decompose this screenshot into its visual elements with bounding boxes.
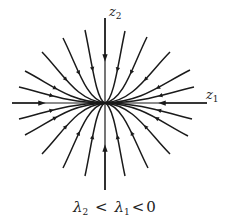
trajectory-curve xyxy=(85,103,105,176)
z1-symbol: z xyxy=(206,87,213,102)
z2-subscript: 2 xyxy=(116,11,122,21)
less-than-1: < xyxy=(95,198,108,216)
zero: 0 xyxy=(146,198,156,216)
lambda2-symbol: λ xyxy=(73,198,83,216)
trajectory-curve xyxy=(85,30,105,103)
trajectories xyxy=(12,18,207,190)
lambda2-subscript: 2 xyxy=(83,207,89,217)
z2-axis-label: z2 xyxy=(109,5,122,21)
less-than-2: < xyxy=(132,198,145,216)
trajectory-curve xyxy=(105,103,125,176)
lambda1-subscript: 1 xyxy=(124,207,130,217)
phase-portrait xyxy=(0,0,228,221)
z1-subscript: 1 xyxy=(213,94,219,104)
eigenvalue-condition-caption: λ2 < λ1<0 xyxy=(73,200,158,217)
z1-axis-label: z1 xyxy=(206,88,219,104)
lambda1-symbol: λ xyxy=(114,198,124,216)
z2-symbol: z xyxy=(109,4,116,19)
trajectory-curve xyxy=(105,31,125,103)
